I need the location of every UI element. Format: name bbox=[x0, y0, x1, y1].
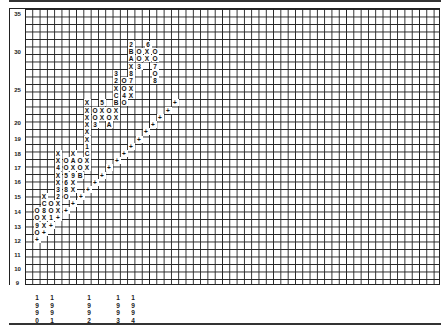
o-box: O bbox=[121, 77, 128, 84]
month-marker: 8 bbox=[41, 207, 48, 214]
month-marker: B bbox=[77, 172, 84, 179]
o-box: O bbox=[77, 157, 84, 164]
x-box: X bbox=[84, 99, 91, 106]
x-box: X bbox=[41, 193, 48, 200]
x-box: X bbox=[84, 164, 91, 171]
trendline-plus: + bbox=[143, 128, 150, 135]
y-tick-label: 19 bbox=[10, 136, 25, 143]
o-box: O bbox=[34, 214, 41, 221]
y-tick-label: 25 bbox=[10, 87, 25, 94]
year-digit: 1 bbox=[48, 317, 56, 325]
x-box: X bbox=[113, 114, 120, 121]
year-digit: 9 bbox=[48, 309, 56, 317]
year-digit: 9 bbox=[114, 309, 122, 317]
month-marker: 3 bbox=[55, 186, 62, 193]
x-box: X bbox=[99, 114, 106, 121]
trendline-plus: + bbox=[136, 136, 143, 143]
y-tick-label: 16 bbox=[10, 179, 25, 186]
trendline-plus: + bbox=[114, 157, 121, 164]
y-tick-label: 12 bbox=[10, 238, 25, 245]
y-tick-label: 30 bbox=[10, 49, 25, 56]
x-box: X bbox=[144, 55, 151, 62]
y-tick-label: 14 bbox=[10, 209, 25, 216]
x-box: X bbox=[113, 85, 120, 92]
y-tick-label: 20 bbox=[10, 120, 25, 127]
year-digit: 1 bbox=[114, 294, 122, 302]
x-box: X bbox=[41, 222, 48, 229]
o-box: O bbox=[136, 55, 143, 62]
year-digit: 4 bbox=[129, 317, 137, 325]
month-marker: A bbox=[128, 55, 135, 62]
trendline-plus: + bbox=[165, 107, 172, 114]
year-digit: 9 bbox=[129, 302, 137, 310]
y-tick-label: 35 bbox=[10, 11, 25, 18]
x-box: X bbox=[55, 150, 62, 157]
o-box: O bbox=[34, 229, 41, 236]
y-tick-label: 9 bbox=[10, 280, 25, 287]
x-box: X bbox=[70, 164, 77, 171]
month-marker: A bbox=[106, 121, 113, 128]
month-marker: 3 bbox=[92, 121, 99, 128]
trendline-plus: + bbox=[99, 172, 106, 179]
trendline-plus: + bbox=[48, 222, 55, 229]
year-digit: 3 bbox=[114, 317, 122, 325]
o-box: O bbox=[121, 99, 128, 106]
x-box: X bbox=[70, 150, 77, 157]
point-and-figure-chart: 35302520191817161514131211109 bbox=[9, 8, 440, 285]
month-marker: B bbox=[128, 48, 135, 55]
month-marker: 1 bbox=[84, 143, 91, 150]
y-tick-label: 11 bbox=[10, 252, 25, 259]
y-tick-label: 18 bbox=[10, 151, 25, 158]
y-tick-label: 15 bbox=[10, 194, 25, 201]
x-box: X bbox=[99, 107, 106, 114]
x-box: X bbox=[55, 157, 62, 164]
trendline-plus: + bbox=[63, 207, 70, 214]
month-marker: 8 bbox=[63, 186, 70, 193]
x-box: X bbox=[84, 157, 91, 164]
month-marker: 9 bbox=[70, 172, 77, 179]
month-marker: 4 bbox=[121, 92, 128, 99]
o-box: O bbox=[63, 164, 70, 171]
month-marker: 9 bbox=[34, 222, 41, 229]
month-marker: 4 bbox=[55, 164, 62, 171]
o-box: O bbox=[106, 114, 113, 121]
y-tick-label: 10 bbox=[10, 266, 25, 273]
bottom-rule bbox=[9, 323, 441, 325]
year-digit: 0 bbox=[33, 317, 41, 325]
year-digit: 1 bbox=[129, 294, 137, 302]
x-box: X bbox=[55, 172, 62, 179]
month-marker: 6 bbox=[145, 41, 152, 48]
o-box: O bbox=[121, 85, 128, 92]
o-box: O bbox=[152, 48, 159, 55]
o-box: O bbox=[152, 70, 159, 77]
month-marker: 1 bbox=[48, 214, 55, 221]
top-rule bbox=[9, 0, 441, 2]
year-digit: 9 bbox=[48, 302, 56, 310]
trendline-plus: + bbox=[121, 150, 128, 157]
trendline-plus: + bbox=[85, 186, 92, 193]
month-marker: 2 bbox=[55, 193, 62, 200]
month-marker: 3 bbox=[113, 70, 120, 77]
y-axis-label-column: 35302520191817161514131211109 bbox=[10, 9, 26, 284]
year-digit: 2 bbox=[85, 317, 93, 325]
x-box: X bbox=[84, 136, 91, 143]
x-box: X bbox=[84, 121, 91, 128]
x-box: X bbox=[55, 200, 62, 207]
o-box: O bbox=[63, 157, 70, 164]
month-marker: A bbox=[70, 157, 77, 164]
trendline-plus: + bbox=[92, 179, 99, 186]
year-digit: 1 bbox=[33, 294, 41, 302]
x-box: X bbox=[70, 179, 77, 186]
month-marker: C bbox=[113, 92, 120, 99]
month-marker: 5 bbox=[63, 172, 70, 179]
o-box: O bbox=[136, 48, 143, 55]
year-digit: 1 bbox=[48, 294, 56, 302]
x-box: X bbox=[41, 214, 48, 221]
o-box: O bbox=[48, 200, 55, 207]
trendline-plus: + bbox=[70, 200, 77, 207]
o-box: O bbox=[92, 107, 99, 114]
month-marker: 5 bbox=[99, 99, 106, 106]
y-tick-label: 17 bbox=[10, 165, 25, 172]
x-box: X bbox=[128, 63, 135, 70]
month-marker: 8 bbox=[152, 77, 159, 84]
